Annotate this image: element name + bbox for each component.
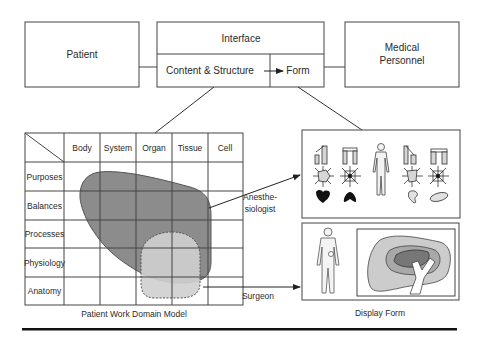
anesthesiologist-label-line1: Anesthe- [243, 192, 277, 202]
organ-cross-section [357, 229, 455, 296]
row-header-anatomy: Anatomy [28, 286, 62, 296]
medical-personnel-box: Medical Personnel [345, 22, 459, 87]
column-header-tissue: Tissue [178, 143, 203, 153]
form-to-display-line [298, 87, 362, 130]
interface-box: Interface Content & Structure Form [157, 22, 324, 87]
display-caption: Display Form [355, 308, 405, 318]
column-header-system: System [104, 143, 132, 153]
medical-personnel-label-line1: Medical [385, 42, 419, 53]
form-label: Form [286, 65, 309, 76]
surgeon-label: Surgeon [242, 291, 274, 301]
anesthesiologist-label-line2: siologist [245, 204, 276, 214]
work-domain-grid: Body System Organ Tissue Cell Purposes B… [24, 133, 243, 305]
row-header-processes: Processes [25, 229, 65, 239]
surgeon-display-panel [302, 223, 459, 300]
column-header-cell: Cell [218, 143, 233, 153]
medical-personnel-label-line2: Personnel [379, 55, 424, 66]
column-header-body: Body [72, 143, 92, 153]
organ-marker-icon [329, 252, 334, 257]
column-header-organ: Organ [142, 143, 166, 153]
surgeon-region [141, 232, 200, 298]
footer-rule [22, 328, 457, 331]
content-structure-label: Content & Structure [166, 65, 254, 76]
row-header-balances: Balances [27, 201, 62, 211]
interface-label: Interface [222, 33, 261, 44]
patient-box: Patient [25, 22, 139, 87]
row-header-physiology: Physiology [24, 258, 66, 268]
anesthesiologist-display-panel [302, 130, 460, 218]
patient-label: Patient [66, 49, 97, 60]
row-header-purposes: Purposes [27, 172, 63, 182]
content-to-grid-line [155, 87, 214, 133]
grid-caption: Patient Work Domain Model [81, 309, 187, 319]
